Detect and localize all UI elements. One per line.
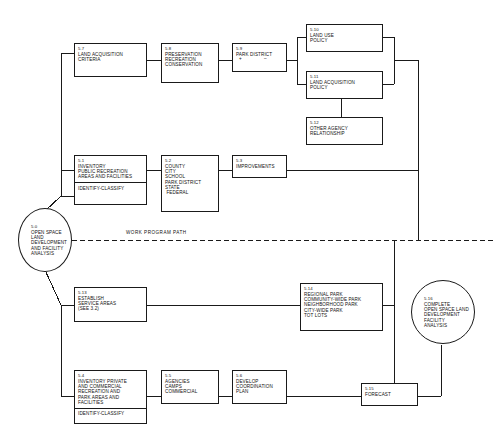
node-5-1-main-compartment: 5.1 INVENTORY PUBLIC RECREATION AREAS AN… xyxy=(75,156,146,183)
node-5-7-number: 5.7 xyxy=(78,46,143,51)
node-5-6-line-3: PLAN xyxy=(236,389,283,394)
node-5-12-line-2: RELATIONSHIP xyxy=(310,131,379,136)
node-5-4-identify-classify: IDENTIFY-CLASSIFY xyxy=(75,409,146,419)
node-5-4-inventory-private-commercial[interactable]: 5.4 INVENTORY PRIVATE AND COMMERCIAL REC… xyxy=(74,370,147,424)
node-5-13-line-3: (SEE 3.2) xyxy=(78,306,143,311)
node-5-14-line-5: TOT LOTS xyxy=(304,313,379,318)
node-5-16-line-5: ANALYSIS xyxy=(424,323,474,328)
node-5-16-text: 5.16 COMPLETE OPEN SPACE LAND DEVELOPMEN… xyxy=(412,296,474,328)
node-5-7-line-2: CRITERIA xyxy=(78,57,143,62)
node-5-6-develop-coordination-plan[interactable]: 5.6 DEVELOP COORDINATION PLAN xyxy=(232,370,287,404)
node-5-15-number: 5.15 xyxy=(365,386,414,391)
node-5-11-number: 5.11 xyxy=(310,74,379,79)
node-5-9-plus-symbol: + xyxy=(239,57,242,62)
node-5-10-number: 5.10 xyxy=(310,27,379,32)
flowchart-canvas: 5.0 OPEN SPACE LAND DEVELOPMENT AND FACI… xyxy=(0,0,493,444)
node-5-13-establish-service-areas[interactable]: 5.13 ESTABLISH SERVICE AREAS (SEE 3.2) xyxy=(74,287,147,322)
node-5-4-main-compartment: 5.4 INVENTORY PRIVATE AND COMMERCIAL REC… xyxy=(75,371,146,409)
node-5-3-improvements[interactable]: 5.3 IMPROVEMENTS xyxy=(232,155,287,178)
wire-circle-to-lower-rail xyxy=(45,270,61,305)
node-5-6-number: 5.6 xyxy=(236,373,283,378)
node-5-16-number: 5.16 xyxy=(424,296,474,301)
node-5-0-line-5: ANALYSIS xyxy=(31,251,71,256)
node-5-12-other-agency-relationship[interactable]: 5.12 OTHER AGENCY RELATIONSHIP xyxy=(306,117,383,145)
node-5-10-land-use-policy[interactable]: 5.10 LAND USE POLICY xyxy=(306,24,383,52)
node-5-8-line-3: CONSERVATION xyxy=(165,62,215,67)
node-5-14-park-types[interactable]: 5.14 REGIONAL PARK COMMUNITY-WIDE PARK N… xyxy=(300,283,383,331)
node-5-9-park-district[interactable]: 5.9 PARK DISTRICT + – xyxy=(232,43,287,72)
node-5-0-text: 5.0 OPEN SPACE LAND DEVELOPMENT AND FACI… xyxy=(19,224,71,256)
node-5-9-minus-symbol: – xyxy=(264,57,267,62)
node-5-0-open-space-land-development[interactable]: 5.0 OPEN SPACE LAND DEVELOPMENT AND FACI… xyxy=(18,208,72,272)
node-5-2-number: 5.2 xyxy=(165,158,215,163)
node-5-3-line-1: IMPROVEMENTS xyxy=(236,164,283,169)
node-5-0-number: 5.0 xyxy=(31,224,71,229)
node-5-8-number: 5.8 xyxy=(165,46,215,51)
node-5-5-agencies-camps-commercial[interactable]: 5.5 AGENCIES CAMPS COMMERCIAL xyxy=(161,370,219,404)
node-5-13-number: 5.13 xyxy=(78,290,143,295)
node-5-2-line-6: FEDERAL xyxy=(165,190,215,195)
node-5-10-line-2: POLICY xyxy=(310,38,379,43)
node-5-2-agency-list[interactable]: 5.2 COUNTY CITY SCHOOL PARK DISTRICT STA… xyxy=(161,155,219,212)
node-5-9-number: 5.9 xyxy=(236,46,283,51)
node-5-11-land-acquisition-policy[interactable]: 5.11 LAND ACQUISITION POLICY xyxy=(306,71,383,99)
work-program-path-label: WORK PROGRAM PATH xyxy=(126,230,187,235)
node-5-11-line-2: POLICY xyxy=(310,85,379,90)
node-5-12-number: 5.12 xyxy=(310,120,379,125)
node-5-9-plus-minus-row: + – xyxy=(236,57,283,62)
node-5-4-number: 5.4 xyxy=(78,373,143,378)
node-5-8-preservation-recreation-conservation[interactable]: 5.8 PRESERVATION RECREATION CONSERVATION xyxy=(161,43,219,83)
node-5-16-complete-analysis[interactable]: 5.16 COMPLETE OPEN SPACE LAND DEVELOPMEN… xyxy=(411,280,475,344)
node-5-1-number: 5.1 xyxy=(78,158,143,163)
node-5-3-number: 5.3 xyxy=(236,158,283,163)
node-5-7-land-acquisition-criteria[interactable]: 5.7 LAND ACQUISITION CRITERIA xyxy=(74,43,147,77)
node-5-1-identify-classify: IDENTIFY-CLASSIFY xyxy=(75,183,146,193)
node-5-14-number: 5.14 xyxy=(304,286,379,291)
node-5-15-line-1: FORECAST xyxy=(365,392,414,397)
node-5-4-line-5: FACILITIES xyxy=(78,400,143,405)
node-5-0-line-3: DEVELOPMENT xyxy=(31,240,71,245)
node-5-5-line-3: COMMERCIAL xyxy=(165,389,215,394)
node-5-5-number: 5.5 xyxy=(165,373,215,378)
node-5-15-forecast[interactable]: 5.15 FORECAST xyxy=(361,383,418,406)
node-5-1-line-3: AREAS AND FACILITIES xyxy=(78,174,143,179)
node-5-1-inventory-public-recreation[interactable]: 5.1 INVENTORY PUBLIC RECREATION AREAS AN… xyxy=(74,155,147,205)
